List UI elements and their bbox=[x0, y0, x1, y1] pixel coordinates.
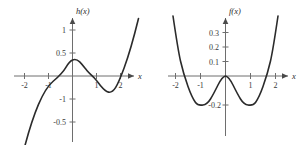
x-axis-label-right: x bbox=[291, 71, 296, 81]
y-ticklabel-0p1-right: 0.1 bbox=[209, 58, 219, 67]
y-axis-arrow-left bbox=[70, 18, 76, 24]
y-ticklabel-0p2-right: 0.2 bbox=[209, 43, 219, 52]
x-ticklabel-minus2-right: -2 bbox=[172, 81, 179, 90]
y-ticklabel-0p5-left: 0.5 bbox=[56, 49, 66, 58]
y-axis-label-right: f(x) bbox=[229, 6, 241, 16]
y-axis-label-left: h(x) bbox=[76, 6, 90, 16]
math-figure: -2 -1 1 2 1 0.5 -1 -0.5 h(x) x bbox=[0, 0, 304, 145]
y-ticklabel-1-left: 1 bbox=[62, 26, 66, 35]
y-ticklabel-minus0p5-left: -1 bbox=[59, 95, 66, 104]
y-ticklabel-minus0p2-right: -0.2 bbox=[208, 101, 221, 110]
chart-h-of-x: -2 -1 1 2 1 0.5 -1 -0.5 h(x) x bbox=[14, 6, 142, 145]
y-ticklabel-0p3-right: 0.3 bbox=[209, 29, 219, 38]
x-ticklabel-1-right: 1 bbox=[249, 81, 253, 90]
x-axis-arrow-left bbox=[128, 73, 134, 79]
chart-f-of-x: -2 -1 1 2 0.3 0.2 0.1 -0.2 f(x) x bbox=[168, 6, 296, 136]
y-axis-arrow-right bbox=[223, 18, 229, 24]
x-axis-arrow-right bbox=[282, 73, 288, 79]
x-ticklabel-minus2-left: -2 bbox=[21, 81, 28, 90]
x-ticklabel-minus1-right: -1 bbox=[197, 81, 204, 90]
x-ticklabel-2-right: 2 bbox=[274, 81, 278, 90]
y-ticklabel-minus1-left: -0.5 bbox=[53, 118, 66, 127]
x-axis-label-left: x bbox=[137, 71, 142, 81]
